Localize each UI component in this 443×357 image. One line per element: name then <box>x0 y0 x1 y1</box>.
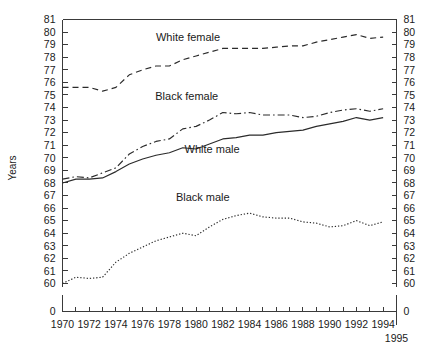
y-axis-title: Years <box>7 155 18 180</box>
y-tick-label-right: 75 <box>404 89 416 101</box>
y-tick-label-left: 69 <box>44 164 56 176</box>
y-tick-label-right: 68 <box>404 177 416 189</box>
data-series-lines <box>63 35 384 284</box>
y-tick-label-left: 77 <box>44 64 56 76</box>
chart-figure: 8180797877767574737271706968676665646362… <box>0 0 443 357</box>
y-tick-label-right: 67 <box>404 189 416 201</box>
y-tick-label-right: 77 <box>404 64 416 76</box>
y-tick-label-left: 79 <box>44 38 56 50</box>
y-tick-label-left: 75 <box>44 89 56 101</box>
x-tick-label: 1972 <box>78 318 102 330</box>
y-tick-label-left: 78 <box>44 51 56 63</box>
series-line-white-female <box>63 35 384 92</box>
y-tick-label-right: 69 <box>404 164 416 176</box>
y-tick-label-right: 65 <box>404 214 416 226</box>
y-tick-label-right: 60 <box>404 277 416 289</box>
y-tick-label-left: 76 <box>44 76 56 88</box>
y-tick-label-right: 80 <box>404 26 416 38</box>
y-axis-right-ticks <box>392 20 397 284</box>
x-tick-label: 1978 <box>158 318 182 330</box>
x-tick-label: 1994 <box>371 318 395 330</box>
life-expectancy-line-chart: 8180797877767574737271706968676665646362… <box>0 0 443 357</box>
y-tick-label-left: 0 <box>50 305 56 317</box>
y-tick-label-right: 78 <box>404 51 416 63</box>
y-tick-label-left: 66 <box>44 202 56 214</box>
x-tick-label: 1976 <box>131 318 155 330</box>
x-tick-label: 1990 <box>318 318 342 330</box>
y-tick-label-left: 74 <box>44 101 56 113</box>
y-tick-label-right: 70 <box>404 152 416 164</box>
y-tick-label-right: 61 <box>404 265 416 277</box>
y-axis-left-ticks <box>63 20 68 284</box>
series-annotation-black-male: Black male <box>176 191 230 203</box>
x-axis-ticks <box>63 307 384 312</box>
x-tick-label: 1986 <box>265 318 289 330</box>
y-tick-label-left: 80 <box>44 26 56 38</box>
y-tick-label-left: 61 <box>44 265 56 277</box>
y-tick-label-right: 81 <box>404 13 416 25</box>
x-tick-label: 1992 <box>345 318 369 330</box>
series-annotation-white-male: White male <box>185 143 240 155</box>
y-tick-label-left: 70 <box>44 152 56 164</box>
y-tick-label-left: 81 <box>44 13 56 25</box>
y-tick-label-left: 65 <box>44 214 56 226</box>
x-tick-label: 1988 <box>291 318 315 330</box>
y-tick-label-right: 72 <box>404 126 416 138</box>
x-tick-label: 1980 <box>184 318 208 330</box>
plot-frame <box>63 20 397 325</box>
axis-titles: Years <box>7 155 18 180</box>
y-tick-label-left: 72 <box>44 126 56 138</box>
y-tick-label-right: 63 <box>404 240 416 252</box>
y-tick-label-left: 73 <box>44 114 56 126</box>
y-tick-label-right: 0 <box>404 305 410 317</box>
x-tick-label: 1982 <box>211 318 235 330</box>
x-tick-label: 1974 <box>104 318 128 330</box>
series-annotation-white-female: White female <box>156 31 220 43</box>
y-tick-label-right: 71 <box>404 139 416 151</box>
y-tick-label-left: 63 <box>44 240 56 252</box>
x-axis-labels: 1970197219741976197819801982198419861988… <box>51 318 409 344</box>
x-tick-label: 1970 <box>51 318 75 330</box>
y-tick-label-right: 73 <box>404 114 416 126</box>
y-tick-label-left: 67 <box>44 189 56 201</box>
y-tick-label-right: 79 <box>404 38 416 50</box>
series-annotation-black-female: Black female <box>155 90 218 102</box>
series-annotations: White femaleBlack femaleWhite maleBlack … <box>155 31 239 203</box>
y-tick-label-left: 62 <box>44 252 56 264</box>
y-axis-left-labels: 8180797877767574737271706968676665646362… <box>44 13 56 317</box>
y-tick-label-left: 71 <box>44 139 56 151</box>
y-tick-label-left: 68 <box>44 177 56 189</box>
x-axis-end-label: 1995 <box>385 332 409 344</box>
y-tick-label-right: 76 <box>404 76 416 88</box>
y-tick-label-left: 60 <box>44 277 56 289</box>
y-tick-label-right: 66 <box>404 202 416 214</box>
y-tick-label-right: 64 <box>404 227 416 239</box>
y-tick-label-left: 64 <box>44 227 56 239</box>
y-axis-right-labels: 8180797877767574737271706968676665646362… <box>404 13 416 317</box>
x-tick-label: 1984 <box>238 318 262 330</box>
y-tick-label-right: 74 <box>404 101 416 113</box>
series-line-black-male <box>63 213 384 283</box>
y-tick-label-right: 62 <box>404 252 416 264</box>
